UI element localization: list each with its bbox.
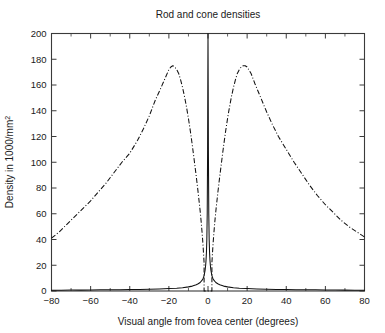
y-tick-label: 40 bbox=[36, 234, 47, 245]
x-tick-label: −20 bbox=[161, 295, 177, 306]
x-tick-label: 40 bbox=[281, 295, 292, 306]
x-tick-label: 60 bbox=[320, 295, 331, 306]
x-tick-label: −60 bbox=[83, 295, 99, 306]
y-tick-label: 60 bbox=[36, 208, 47, 219]
y-tick-label: 160 bbox=[31, 79, 47, 90]
y-tick-label: 120 bbox=[31, 131, 47, 142]
x-tick-label: 80 bbox=[359, 295, 370, 306]
y-tick-label: 180 bbox=[31, 54, 47, 65]
y-tick-label: 20 bbox=[36, 260, 47, 271]
x-tick-label: 0 bbox=[205, 295, 210, 306]
chart-background bbox=[0, 0, 385, 333]
chart-title: Rod and cone densities bbox=[156, 9, 261, 20]
y-tick-label: 200 bbox=[31, 28, 47, 39]
x-tick-label: −40 bbox=[122, 295, 138, 306]
rod-and-cone-density-chart: Rod and cone densities −80−60−40−2002040… bbox=[0, 0, 385, 333]
x-axis-tick-labels: −80−60−40−20020406080 bbox=[43, 295, 369, 306]
x-axis-label: Visual angle from fovea center (degrees) bbox=[118, 316, 298, 327]
x-tick-label: 20 bbox=[242, 295, 253, 306]
y-tick-label: 0 bbox=[41, 285, 46, 296]
x-tick-label: −80 bbox=[43, 295, 59, 306]
y-tick-label: 80 bbox=[36, 182, 47, 193]
y-tick-label: 140 bbox=[31, 105, 47, 116]
y-axis-label: Density in 1000/mm2 bbox=[4, 116, 16, 208]
y-tick-label: 100 bbox=[31, 157, 47, 168]
chart-figure: Rod and cone densities −80−60−40−2002040… bbox=[0, 0, 385, 333]
